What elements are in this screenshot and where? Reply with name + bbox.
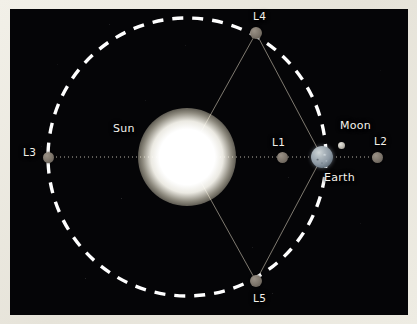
lagrange-diagram: Sun Earth Moon L1 L2 L3 L4 L5 bbox=[0, 0, 417, 324]
lagrange-point-l3 bbox=[43, 152, 54, 163]
moon-body bbox=[338, 142, 345, 149]
lagrange-label-l3: L3 bbox=[23, 146, 36, 158]
lagrange-label-l5: L5 bbox=[253, 292, 266, 304]
lagrange-label-l2: L2 bbox=[374, 135, 387, 147]
moon-label: Moon bbox=[340, 119, 371, 132]
lagrange-point-l1 bbox=[277, 152, 288, 163]
sun-body bbox=[138, 108, 236, 206]
earth-label: Earth bbox=[324, 171, 355, 184]
lagrange-point-l4 bbox=[250, 27, 262, 39]
earth-body bbox=[311, 146, 333, 168]
lagrange-point-l2 bbox=[372, 152, 383, 163]
lagrange-point-l5 bbox=[250, 275, 262, 287]
lagrange-label-l4: L4 bbox=[253, 10, 266, 22]
lagrange-label-l1: L1 bbox=[272, 136, 285, 148]
sun-label: Sun bbox=[113, 122, 135, 135]
